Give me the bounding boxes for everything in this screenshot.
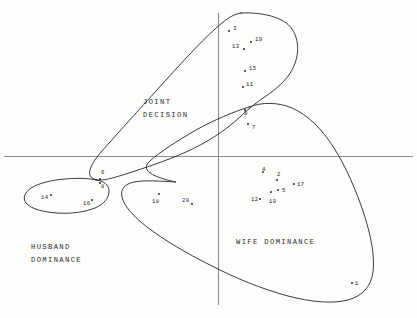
data-point-label: 5 [282, 187, 286, 194]
data-point-marker [244, 70, 246, 72]
data-point-marker [250, 41, 252, 43]
data-point-label: 3 [233, 25, 237, 32]
data-point-label: 12 [251, 196, 259, 203]
data-point-label: 19 [255, 36, 263, 43]
data-point-marker [247, 123, 249, 125]
data-point-label: 16 [83, 200, 91, 207]
data-point-marker [243, 48, 245, 50]
data-point-label: 6 [101, 169, 105, 176]
data-point-marker [99, 178, 101, 180]
data-point-label: 9 [244, 110, 248, 117]
joint-decision-region-caption: DECISION [143, 109, 188, 122]
data-point-marker [242, 86, 244, 88]
data-point-marker [293, 183, 295, 185]
data-point-marker [91, 199, 93, 201]
joint-decision-region-caption: JOINT [143, 96, 171, 109]
data-point-label: 15 [249, 65, 257, 72]
data-point-label: 8 [101, 183, 105, 190]
data-point-marker [259, 198, 261, 200]
data-point-marker [191, 203, 193, 205]
data-point-marker [228, 30, 230, 32]
data-point-label: 2 [277, 171, 281, 178]
data-point-label: 13 [232, 43, 240, 50]
dominance-scatter-figure: JOINTDECISIONHUSBANDDOMINANCEWIFE DOMINA… [0, 0, 417, 318]
data-point-label: 17 [297, 181, 305, 188]
data-point-marker [277, 189, 279, 191]
husband-dominance-region-caption: DOMINANCE [31, 254, 82, 267]
data-point-label: 20 [182, 197, 190, 204]
data-point-label: 11 [246, 81, 254, 88]
data-point-label: 7 [252, 124, 256, 131]
husband-dominance-outline [24, 178, 109, 213]
data-point-label: 18 [152, 198, 160, 205]
wife-dominance-region-caption: WIFE DOMINANCE [236, 236, 315, 249]
joint-decision-outline [89, 13, 297, 180]
data-point-marker [351, 282, 353, 284]
data-point-label: 14 [41, 194, 49, 201]
data-point-marker [270, 191, 272, 193]
data-point-marker [50, 194, 52, 196]
husband-dominance-region-caption: HUSBAND [31, 241, 71, 254]
data-point-label: 4 [262, 166, 266, 173]
plot-canvas [0, 0, 417, 318]
data-point-label: 1 [355, 280, 359, 287]
data-point-label: 10 [269, 198, 277, 205]
data-point-marker [276, 179, 278, 181]
data-point-marker [158, 193, 160, 195]
